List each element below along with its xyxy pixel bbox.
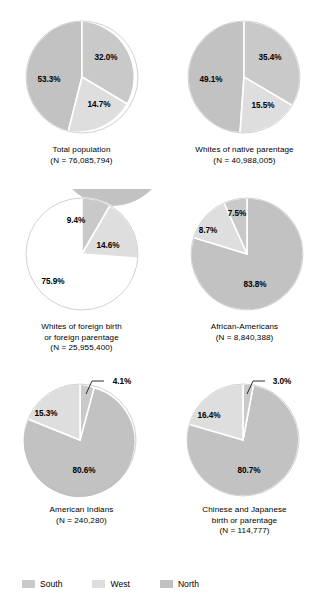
pie-wrap-whites-foreign-birth: 9.4% 14.6% 75.9%	[0, 189, 163, 321]
slice-label-north: 83.8%	[243, 280, 267, 289]
pie-svg-whites-native-parentage: 35.4% 15.5% 49.1%	[163, 12, 326, 142]
chart-caption-total-population: Total population (N = 76,085,794)	[0, 145, 163, 166]
chart-caption-african-americans: African-Americans (N = 8,840,388)	[163, 322, 326, 343]
legend-item-west: West	[92, 579, 129, 589]
pie-svg-whites-foreign-birth: 9.4% 14.6% 75.9%	[0, 189, 163, 319]
caption-title-line2: or foreign parentage	[0, 333, 163, 344]
legend-swatch-icon-north	[160, 580, 173, 588]
caption-title: Whites of foreign birth	[0, 322, 163, 333]
chart-cell-whites-foreign-birth: 9.4% 14.6% 75.9% Whites of foreign birth…	[0, 189, 163, 354]
caption-title: American Indians	[0, 505, 163, 516]
chart-cell-whites-native-parentage: 35.4% 15.5% 49.1% Whites of native paren…	[163, 12, 326, 166]
chart-grid: 32.0% 14.7% 53.3% Total population (N = …	[0, 0, 327, 565]
slice-label-west: 16.4%	[197, 411, 221, 420]
pie-wrap-african-americans: 7.5% 8.7% 83.8%	[163, 189, 326, 321]
legend-label-north: North	[178, 579, 199, 589]
chart-cell-total-population: 32.0% 14.7% 53.3% Total population (N = …	[0, 12, 163, 166]
chart-cell-american-indians: 4.1% 15.3% 80.6% American Indians (N = 2…	[0, 372, 163, 526]
pie-svg-chinese-japanese: 3.0% 16.4% 80.7%	[163, 372, 326, 502]
caption-title: African-Americans	[163, 322, 326, 333]
legend-label-south: South	[40, 579, 62, 589]
caption-title: Whites of native parentage	[163, 145, 326, 156]
caption-title: Total population	[0, 145, 163, 156]
pie-wrap-chinese-japanese: 3.0% 16.4% 80.7%	[163, 372, 326, 504]
slice-label-west: 14.6%	[96, 241, 120, 250]
caption-title-line2: birth or parentage	[163, 516, 326, 527]
chart-caption-american-indians: American Indians (N = 240,280)	[0, 505, 163, 526]
caption-subtitle: (N = 25,955,400)	[0, 343, 163, 354]
slice-label-north: 53.3%	[37, 75, 61, 84]
caption-subtitle: (N = 240,280)	[0, 516, 163, 527]
legend: South West North	[0, 573, 327, 595]
pie-wrap-total-population: 32.0% 14.7% 53.3%	[0, 12, 163, 144]
slice-label-north: 75.9%	[41, 277, 65, 286]
caption-subtitle: (N = 76,085,794)	[0, 156, 163, 167]
slice-label-west: 15.3%	[34, 409, 58, 418]
pie-svg-american-indians: 4.1% 15.3% 80.6%	[0, 372, 163, 502]
caption-title: Chinese and Japanese	[163, 505, 326, 516]
slice-label-south: 32.0%	[94, 53, 118, 62]
slice-label-north: 80.6%	[72, 466, 96, 475]
pie-svg-african-americans: 7.5% 8.7% 83.8%	[163, 189, 326, 319]
caption-subtitle: (N = 8,840,388)	[163, 333, 326, 344]
chart-cell-chinese-japanese: 3.0% 16.4% 80.7% Chinese and Japanese bi…	[163, 372, 326, 537]
slice-label-north: 49.1%	[199, 75, 223, 84]
pie-svg-total-population: 32.0% 14.7% 53.3%	[0, 12, 163, 142]
slice-label-south: 9.4%	[67, 216, 86, 225]
slice-label-south: 35.4%	[258, 53, 282, 62]
pie-chart-figure: 32.0% 14.7% 53.3% Total population (N = …	[0, 0, 327, 605]
chart-caption-whites-foreign-birth: Whites of foreign birth or foreign paren…	[0, 322, 163, 354]
slice-label-west: 15.5%	[251, 101, 275, 110]
pie-wrap-whites-native-parentage: 35.4% 15.5% 49.1%	[163, 12, 326, 144]
slice-label-south: 7.5%	[228, 209, 247, 218]
legend-swatch-icon-south	[22, 580, 35, 588]
legend-item-south: South	[22, 579, 62, 589]
caption-subtitle: (N = 40,988,005)	[163, 156, 326, 167]
slice-label-west: 8.7%	[199, 226, 218, 235]
chart-caption-chinese-japanese: Chinese and Japanese birth or parentage …	[163, 505, 326, 537]
slice-label-south: 3.0%	[273, 377, 292, 386]
legend-label-west: West	[110, 579, 129, 589]
chart-caption-whites-native-parentage: Whites of native parentage (N = 40,988,0…	[163, 145, 326, 166]
slice-label-south: 4.1%	[113, 377, 132, 386]
slice-label-west: 14.7%	[87, 100, 111, 109]
legend-item-north: North	[160, 579, 199, 589]
chart-cell-african-americans: 7.5% 8.7% 83.8% African-Americans (N = 8…	[163, 189, 326, 343]
pie-wrap-american-indians: 4.1% 15.3% 80.6%	[0, 372, 163, 504]
caption-subtitle: (N = 114,777)	[163, 526, 326, 537]
legend-swatch-icon-west	[92, 580, 105, 588]
slice-label-north: 80.7%	[237, 466, 261, 475]
